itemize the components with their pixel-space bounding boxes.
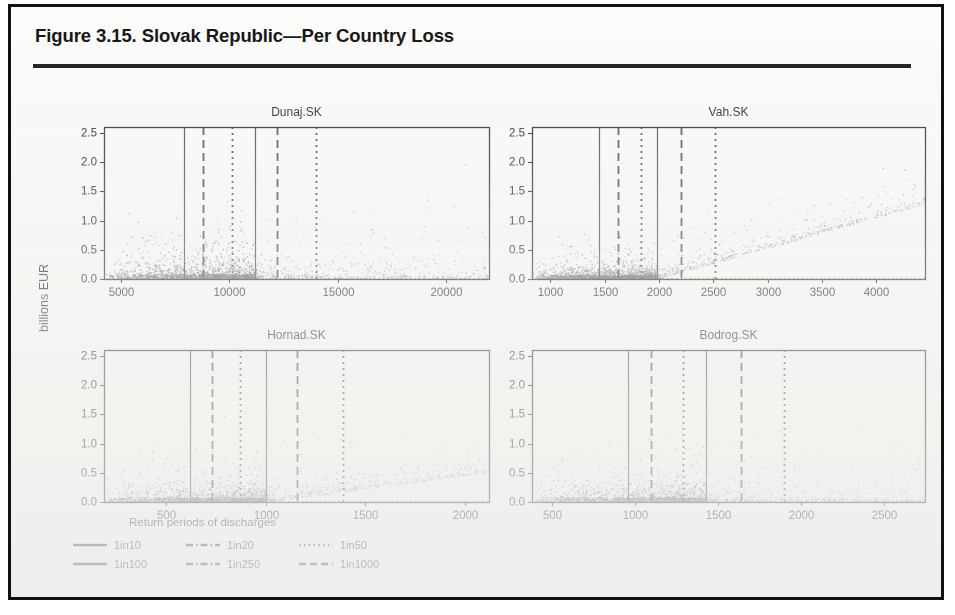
legend-line-swatch-dotted <box>299 540 333 550</box>
legend-label: 1in250 <box>227 558 260 570</box>
legend-line-swatch-dashed <box>299 559 333 569</box>
legend-label: 1in20 <box>227 539 254 551</box>
legend-label: 1in50 <box>340 539 367 551</box>
legend-line-swatch-dashdot <box>186 559 220 569</box>
chart-plot-area: billions EUR Return periods of discharge… <box>11 73 944 597</box>
panel-title-hornad: Hornad.SK <box>104 328 489 342</box>
legend-line-swatch-solid <box>73 559 107 569</box>
panel-title-bodrog: Bodrog.SK <box>532 328 925 342</box>
chart-legend: 1in101in201in501in1001in2501in1000 <box>73 535 413 573</box>
legend-item-1in250: 1in250 <box>186 558 299 570</box>
legend-item-1in1000: 1in1000 <box>299 558 412 570</box>
legend-item-1in50: 1in50 <box>299 539 412 551</box>
legend-row: 1in101in201in50 <box>73 535 413 554</box>
panel-title-vah: Vah.SK <box>532 105 925 119</box>
legend-line-swatch-dashdot <box>186 540 220 550</box>
panel-title-dunaj: Dunaj.SK <box>104 105 489 119</box>
legend-line-swatch-solid <box>73 540 107 550</box>
figure-frame: Figure 3.15. Slovak Republic—Per Country… <box>8 4 944 600</box>
legend-label: 1in10 <box>114 539 141 551</box>
legend-item-1in10: 1in10 <box>73 539 186 551</box>
legend-label: 1in1000 <box>340 558 379 570</box>
y-axis-label: billions EUR <box>37 243 51 353</box>
x-axis-label: Return periods of discharges <box>129 516 276 528</box>
legend-row: 1in1001in2501in1000 <box>73 554 413 573</box>
title-divider <box>33 64 911 68</box>
legend-label: 1in100 <box>114 558 147 570</box>
legend-item-1in20: 1in20 <box>186 539 299 551</box>
figure-title: Figure 3.15. Slovak Republic—Per Country… <box>35 25 454 47</box>
legend-item-1in100: 1in100 <box>73 558 186 570</box>
